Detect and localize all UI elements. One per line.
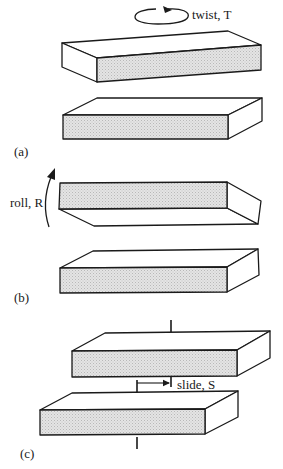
panel-c-label: (c) [20, 447, 34, 460]
panel-b-label: (b) [14, 291, 29, 304]
slab-front-face [40, 409, 205, 435]
slab-front-face [60, 267, 227, 293]
panel-a-label: (a) [14, 145, 28, 158]
base-pair-step-diagram: twist, T (a) roll, R (b) slide, S (c) [0, 0, 283, 469]
slab-front-face [72, 350, 237, 377]
roll-label: roll, R [10, 196, 43, 209]
slab-b-top [59, 182, 261, 226]
slab-front-face [63, 115, 228, 139]
roll-arrow-icon [45, 168, 55, 227]
panel-a [62, 6, 262, 139]
slab-c-bottom [40, 391, 238, 435]
diagram-canvas [0, 0, 283, 469]
panel-c [40, 320, 270, 449]
slab-a-bottom [63, 98, 262, 139]
slide-label: slide, S [177, 378, 215, 391]
panel-b [45, 168, 261, 293]
slab-top-face [60, 249, 258, 268]
slab-c-top [72, 331, 270, 377]
twist-label: twist, T [192, 8, 232, 21]
twist-arrow-icon [135, 6, 188, 24]
slab-b-bottom [60, 249, 259, 293]
slab-front-face [59, 182, 227, 209]
slab-a-top [62, 31, 261, 82]
slab-bottom-face [59, 208, 258, 226]
